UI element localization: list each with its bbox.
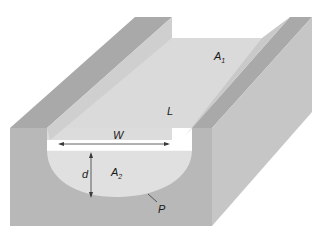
width-dimension	[58, 142, 170, 146]
label-l: L	[167, 105, 173, 117]
channel-figure: A1 L W d A2 P	[0, 0, 324, 236]
channel-diagram: A1 L W d A2 P	[0, 0, 324, 236]
label-w: W	[113, 129, 125, 141]
label-d: d	[82, 168, 89, 180]
label-p: P	[158, 203, 166, 215]
